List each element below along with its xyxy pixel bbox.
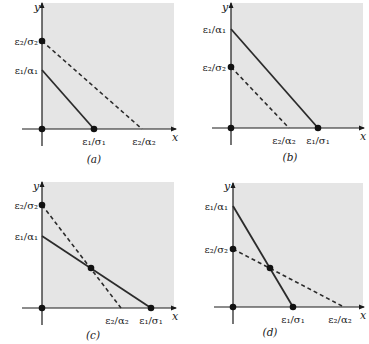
panel-d: ε₁/α₁ε₂/σ₂ε₁/σ₁ε₂/α₂xy(d) (205, 180, 367, 338)
panel-caption: (a) (87, 153, 101, 165)
panel-caption: (c) (86, 329, 100, 341)
x-axis-label: x (172, 310, 179, 323)
vertex-dot (39, 305, 46, 312)
y-intercept-label: ε₂/σ₂ (15, 36, 38, 47)
x-intercept-label: ε₂/α₂ (272, 135, 295, 146)
shaded-region (42, 182, 174, 308)
y-axis-label: y (33, 1, 41, 14)
panel-c: ε₂/σ₂ε₁/α₁ε₂/α₂ε₁/σ₁xy(c) (15, 180, 179, 341)
vertex-dot (39, 126, 46, 133)
vertex-dot (230, 304, 237, 311)
panel-a: ε₂/σ₂ε₁/α₁ε₁/σ₁ε₂/α₂xy(a) (15, 1, 179, 165)
vertex-dot (148, 305, 155, 312)
panel-caption: (b) (283, 151, 298, 163)
x-intercept-label: ε₂/α₂ (105, 315, 128, 326)
panels: ε₂/σ₂ε₁/α₁ε₁/σ₁ε₂/α₂xy(a)ε₁/α₁ε₂/σ₂ε₂/α₂… (15, 1, 367, 341)
y-intercept-label: ε₁/α₁ (205, 201, 228, 212)
y-axis-label: y (223, 180, 231, 193)
y-intercept-label: ε₂/σ₂ (205, 244, 228, 255)
y-intercept-label: ε₂/σ₂ (203, 62, 226, 73)
x-intercept-label: ε₁/σ₁ (82, 136, 105, 147)
x-intercept-label: ε₁/σ₁ (139, 315, 162, 326)
x-intercept-label: ε₂/α₂ (132, 136, 155, 147)
y-axis-label: y (221, 1, 229, 14)
vertex-dot (39, 38, 46, 45)
shaded-region (233, 183, 363, 307)
vertex-dot (230, 246, 237, 253)
panel-caption: (d) (263, 326, 278, 338)
figure: ε₂/σ₂ε₁/α₁ε₁/σ₁ε₂/α₂xy(a)ε₁/α₁ε₂/σ₂ε₂/α₂… (0, 0, 369, 344)
vertex-dot (267, 265, 274, 272)
vertex-dot (290, 304, 297, 311)
x-axis-label: x (360, 309, 367, 322)
y-intercept-label: ε₁/α₁ (203, 24, 226, 35)
x-axis-label: x (360, 130, 367, 143)
vertex-dot (228, 64, 235, 71)
vertex-dot (228, 125, 235, 132)
shaded-region (231, 3, 363, 128)
x-intercept-label: ε₁/σ₁ (306, 135, 329, 146)
x-intercept-label: ε₂/α₂ (328, 314, 351, 325)
x-axis-label: x (172, 131, 179, 144)
y-intercept-label: ε₁/α₁ (15, 65, 38, 76)
vertex-dot (39, 202, 46, 209)
vertex-dot (315, 125, 322, 132)
panel-b: ε₁/α₁ε₂/σ₂ε₂/α₂ε₁/σ₁xy(b) (203, 1, 367, 163)
vertex-dot (91, 126, 98, 133)
y-intercept-label: ε₁/α₁ (15, 231, 38, 242)
y-intercept-label: ε₂/σ₂ (15, 200, 38, 211)
vertex-dot (88, 265, 95, 272)
shaded-region (42, 3, 174, 129)
x-intercept-label: ε₁/σ₁ (281, 314, 304, 325)
y-axis-label: y (32, 180, 40, 193)
